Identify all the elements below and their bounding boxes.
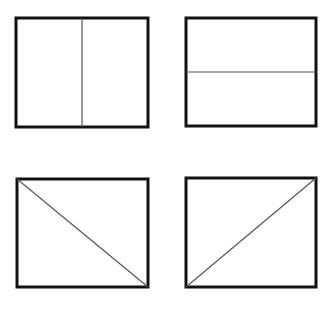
panel-top-right: [186, 18, 316, 126]
panel-bottom-left: [17, 179, 148, 287]
panel-bottom-right: [186, 178, 316, 287]
diagram-canvas: [0, 0, 336, 309]
panel-top-left: [16, 18, 148, 127]
